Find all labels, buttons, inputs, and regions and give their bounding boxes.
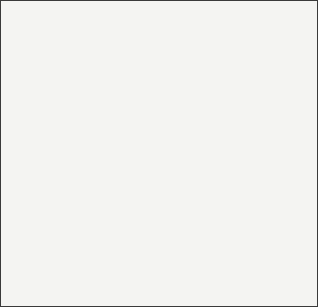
plane-label-c: c xyxy=(12,120,19,133)
planes-illustration xyxy=(0,0,318,307)
anatomical-planes-figure: a b c xyxy=(0,0,318,307)
sagittal-veil-over-head xyxy=(151,33,224,268)
plane-label-b: b xyxy=(207,22,215,35)
plane-label-a: a xyxy=(90,18,97,31)
